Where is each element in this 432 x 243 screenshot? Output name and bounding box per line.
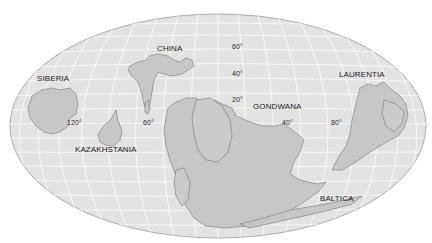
- label-china: CHINA: [157, 45, 182, 53]
- paleogeographic-world-map: SIBERIA CHINA LAURENTIA GONDWANA KAZAKHS…: [0, 0, 432, 243]
- label-kazakhstania: KAZAKHSTANIA: [75, 146, 137, 154]
- label-gondwana: GONDWANA: [253, 103, 302, 111]
- label-laurentia: LAURENTIA: [339, 71, 385, 79]
- longitude-label-80: 80°: [331, 119, 342, 126]
- label-baltica: BALTICA: [320, 195, 353, 203]
- longitude-label-120: 120°: [67, 119, 82, 126]
- map-canvas: [0, 0, 432, 243]
- latitude-label-60: 60°: [232, 43, 243, 50]
- latitude-label-20: 20°: [232, 96, 243, 103]
- longitude-label-60: 60°: [143, 119, 154, 126]
- longitude-label-40: 40°: [282, 119, 293, 126]
- label-siberia: SIBERIA: [37, 75, 69, 83]
- latitude-label-40: 40°: [232, 70, 243, 77]
